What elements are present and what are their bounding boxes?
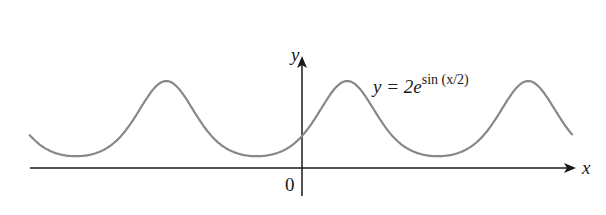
- equation-exponent: sin (x/2): [422, 72, 469, 87]
- x-axis-label: x: [582, 157, 590, 179]
- plot-area: [0, 0, 606, 215]
- equation-label: y = 2esin (x/2): [373, 74, 469, 98]
- y-axis: [297, 56, 307, 196]
- x-axis: [30, 163, 576, 173]
- function-curve: [30, 81, 572, 156]
- y-axis-label: y: [291, 44, 299, 66]
- origin-label: 0: [285, 174, 295, 196]
- equation-main: y = 2e: [373, 76, 422, 97]
